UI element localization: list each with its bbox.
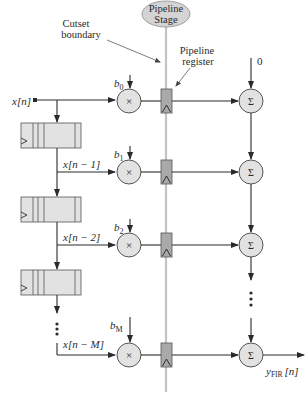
pipeline-stage-ellipse: Pipeline Stage [142, 1, 190, 27]
ellipsis-right-icon [249, 291, 252, 306]
coeff-b2-label: b2 [114, 221, 124, 236]
svg-text:Σ: Σ [248, 96, 254, 107]
coeff-bM-label: bM [110, 319, 123, 334]
input-terminal [33, 98, 37, 102]
coeff-b0-label: b0 [114, 77, 124, 92]
fir-pipeline-diagram: Pipeline Stage Cutset boundary Pipeline … [0, 0, 308, 399]
pipeline-register-label-line1: Pipeline [180, 45, 215, 56]
delay-register-3 [21, 270, 81, 295]
adder-M: Σ [239, 343, 263, 367]
tap2-signal-label: x[n − 2] [62, 231, 100, 243]
initial-sum-label: 0 [257, 55, 263, 67]
pipeline-stage-line2: Stage [154, 14, 178, 25]
pipeline-register-2 [161, 233, 172, 257]
tap1-signal-label: x[n − 1] [62, 158, 100, 170]
pipeline-register-M [161, 343, 172, 367]
adder-2: Σ [239, 233, 263, 257]
cutset-pointer-arrow [107, 40, 160, 62]
tapM-signal-label: x[n − M] [62, 338, 104, 350]
adder-0: Σ [239, 89, 263, 113]
delay-register-1 [21, 123, 81, 148]
delay-register-2 [21, 197, 81, 222]
svg-text:×: × [126, 166, 132, 178]
input-label: x[n] [11, 95, 31, 107]
pipeline-register-label-line2: register [182, 56, 214, 67]
register-pointer-arrow [176, 68, 190, 86]
svg-text:Σ: Σ [248, 167, 254, 178]
svg-text:×: × [126, 239, 132, 251]
coeff-b1-label: b1 [114, 148, 124, 163]
multiplier-2: × [117, 233, 141, 257]
svg-text:Σ: Σ [248, 240, 254, 251]
pipeline-register-1 [161, 160, 172, 184]
output-label: yFIR[n] [265, 365, 299, 379]
svg-text:×: × [126, 349, 132, 361]
svg-text:×: × [126, 95, 132, 107]
cutset-label-line2: boundary [61, 29, 101, 40]
svg-text:Σ: Σ [248, 350, 254, 361]
adder-1: Σ [239, 160, 263, 184]
multiplier-M: × [117, 343, 141, 367]
multiplier-0: × [117, 89, 141, 113]
ellipsis-left-icon [55, 322, 58, 335]
pipeline-register-0 [161, 89, 172, 113]
cutset-label-line1: Cutset [63, 18, 90, 29]
pipeline-stage-line1: Pipeline [149, 3, 184, 14]
multiplier-1: × [117, 160, 141, 184]
